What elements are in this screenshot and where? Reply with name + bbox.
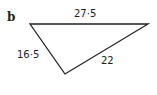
side-length-right: 22 — [101, 55, 114, 66]
side-length-top: 27·5 — [74, 8, 96, 19]
side-length-left: 16·5 — [17, 49, 39, 60]
triangle — [30, 24, 148, 74]
